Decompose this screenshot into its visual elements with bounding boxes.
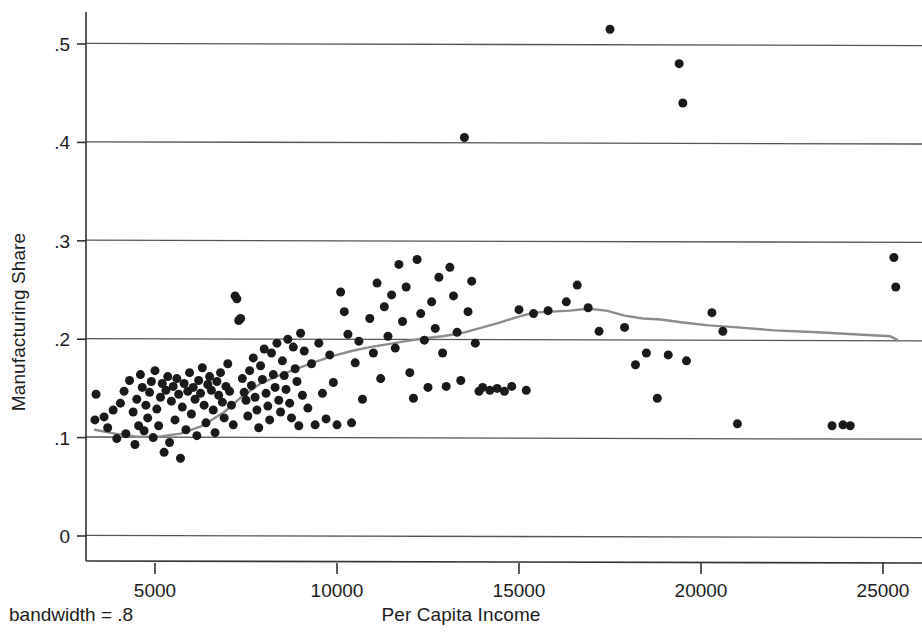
scatter-point [562,297,571,306]
scatter-point [358,395,367,404]
scatter-point [194,376,203,385]
scatter-point [251,393,260,402]
scatter-point [163,372,172,381]
scatter-point [380,302,389,311]
scatter-point [507,382,516,391]
scatter-point [272,339,281,348]
scatter-point [300,347,309,356]
scatter-point [269,370,278,379]
gridline-y-.1 [86,437,922,439]
scatter-point [136,370,145,379]
scatter-point [216,368,225,377]
scatter-point [196,389,205,398]
scatter-point [130,440,139,449]
y-tick-label-group: 0.1.2.3.4.5 [54,34,70,547]
scatter-point [267,348,276,357]
gridline-y-.3 [86,240,922,242]
scatter-point [460,133,469,142]
scatter-point [376,374,385,383]
scatter-point [343,330,352,339]
scatter-point [192,431,201,440]
x-tick-label-25000: 25000 [857,580,910,601]
scatter-point [427,297,436,306]
scatter-point [303,404,312,413]
scatter-point [718,327,727,336]
scatter-point [333,420,342,429]
scatter-point [141,401,150,410]
scatter-point [584,303,593,312]
scatter-point [296,329,305,338]
scatter-point [167,397,176,406]
gridline-y-.2 [86,339,922,341]
scatter-points-group [90,25,900,463]
scatter-point [311,420,320,429]
scatter-point [354,337,363,346]
scatter-point [171,415,180,424]
scatter-point [416,309,425,318]
scatter-point [631,360,640,369]
x-tick-group [155,563,883,574]
scatter-point [258,375,267,384]
x-axis-line-group [86,561,922,563]
scatter-point [278,356,287,365]
scatter-point [413,255,422,264]
x-tick-label-15000: 15000 [493,580,546,601]
y-tick-label-.4: .4 [54,132,70,153]
scatter-point [322,414,331,423]
scatter-point [109,406,118,415]
scatter-point [263,402,272,411]
scatter-point [265,415,274,424]
bandwidth-note: bandwidth = .8 [9,604,133,626]
scatter-point [262,389,271,398]
scatter-point [211,428,220,437]
scatter-point [152,405,161,414]
scatter-point [464,307,473,316]
scatter-point [121,429,130,438]
scatter-point [682,356,691,365]
scatter-point [140,426,149,435]
scatter-point [201,418,210,427]
scatter-point [90,415,99,424]
x-tick-label-5000: 5000 [134,580,176,601]
scatter-point [467,277,476,286]
scatter-point [200,401,209,410]
scatter-point [125,376,134,385]
y-tick-label-.2: .2 [54,329,70,350]
scatter-plot-canvas: 0.1.2.3.4.5 500010000150002000025000 [0,0,922,644]
scatter-point [434,273,443,282]
scatter-point [620,323,629,332]
scatter-point [664,350,673,359]
scatter-point [675,59,684,68]
scatter-point [154,421,163,430]
scatter-point [442,382,451,391]
scatter-point [92,390,101,399]
x-axis-spine [86,561,922,563]
scatter-point [891,283,900,292]
scatter-point [391,344,400,353]
scatter-point [209,406,218,415]
scatter-point [405,368,414,377]
scatter-point [116,399,125,408]
scatter-point [431,324,440,333]
scatter-point [254,423,263,432]
scatter-point [147,377,156,386]
scatter-point [151,366,160,375]
y-tick-label-.5: .5 [54,34,70,55]
scatter-point [285,399,294,408]
scatter-point [449,291,458,300]
scatter-point [132,395,141,404]
scatter-point [256,361,265,370]
y-tick-label-.1: .1 [54,428,70,449]
gridline-y-.4 [86,142,922,144]
y-tick-group [77,44,86,536]
scatter-point [369,348,378,357]
scatter-point [424,383,433,392]
y-axis-title: Manufacturing Share [2,0,36,644]
chart-figure: 0.1.2.3.4.5 500010000150002000025000 Man… [0,0,922,644]
scatter-point [307,359,316,368]
scatter-point [340,307,349,316]
scatter-point [218,398,227,407]
scatter-point [325,350,334,359]
scatter-point [229,420,238,429]
scatter-point [176,454,185,463]
